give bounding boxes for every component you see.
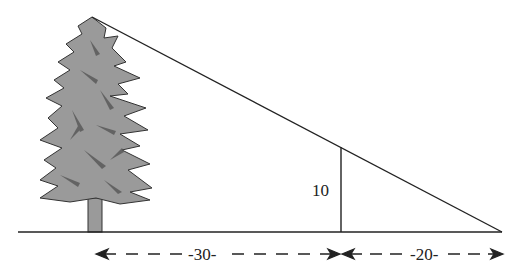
tree-icon — [40, 17, 152, 232]
dimension-30 — [96, 249, 340, 259]
distance-20-label: -20- — [410, 245, 439, 264]
pole-height-label: 10 — [312, 181, 329, 200]
diagram-canvas: 10 -30- -20- — [0, 0, 528, 277]
distance-30-label: -30- — [188, 245, 217, 264]
sight-line — [92, 17, 502, 232]
